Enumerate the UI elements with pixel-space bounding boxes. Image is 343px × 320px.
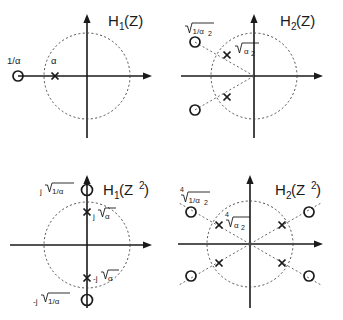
zero-label-prefix: -j (33, 297, 38, 306)
pole-label-radicand: α (244, 47, 249, 56)
zero-marker (190, 37, 200, 47)
pole-label-radicand: α (234, 221, 239, 230)
zero-label-subscript: 2 (208, 30, 212, 37)
axis-imaginary (246, 175, 253, 308)
pole-label-sqrt-alpha2: α 2 (235, 43, 259, 57)
title-argument-open: (Z (119, 181, 133, 198)
title-argument-open: (Z (291, 181, 305, 198)
pole-label-alpha: α (51, 55, 57, 66)
pole-marker (216, 222, 223, 229)
pole-label-radicand: α (105, 212, 110, 221)
title-argument-close: ) (316, 181, 321, 198)
pole-label-subscript: 2 (241, 224, 245, 231)
title-base: H (108, 12, 119, 29)
title-argument: (Z) (124, 12, 143, 29)
zero-marker (190, 105, 200, 115)
ray-330 (250, 203, 321, 244)
panel-h2-z: 1/α 2 α 2 H 2 (Z) (171, 0, 342, 160)
panel-title-h2-z: H 2 (Z) (280, 12, 315, 32)
axis-real (18, 72, 152, 79)
pole-label-prefix: -j (93, 274, 98, 283)
title-argument-close: ) (144, 181, 149, 198)
zero-label-sqrt-1-over-alpha2: 1/α 2 (185, 23, 214, 37)
panel-h2-z2: 4 1/α 2 4 α 2 H 2 (Z 2 ) (171, 160, 342, 320)
zero-label-neg-j-sqrt-1-over-alpha: -j 1/α (33, 293, 70, 306)
plot-h2-z: 1/α 2 α 2 H 2 (Z) (171, 0, 343, 160)
ray-150 (179, 203, 250, 244)
zero-label-prefix: j (39, 187, 42, 196)
plot-h1-z: 1/α α H 1 (Z) (0, 0, 171, 160)
panel-h1-z: 1/α α H 1 (Z) (0, 0, 171, 160)
pole-marker (279, 260, 286, 267)
axis-real (181, 72, 323, 79)
zero-marker (186, 271, 196, 281)
zero-label-4thrt-1-over-alpha2: 4 1/α 2 (180, 186, 210, 206)
title-base: H (103, 181, 114, 198)
zero-label-radicand: 1/α (52, 187, 64, 196)
plot-h1-z2: j 1/α j α -j α -j 1/α (0, 160, 171, 320)
ray-210 (179, 244, 250, 285)
panel-title-h2-z2: H 2 (Z 2 ) (275, 180, 321, 201)
ray-30 (250, 244, 321, 285)
zero-marker (186, 207, 196, 217)
zero-label-root-index: 4 (180, 186, 184, 193)
pole-marker (224, 52, 231, 59)
pole-marker (224, 94, 231, 101)
title-argument: (Z) (296, 12, 315, 29)
panel-h1-z2: j 1/α j α -j α -j 1/α (0, 160, 171, 320)
pole-zero-figure: 1/α α H 1 (Z) (0, 0, 343, 320)
zero-label-radicand: 1/α (48, 297, 60, 306)
panel-title-h1-z2: H 1 (Z 2 ) (103, 180, 149, 201)
pole-marker (279, 222, 286, 229)
zero-label-radicand: 1/α (189, 196, 201, 205)
zero-marker (304, 271, 314, 281)
pole-label-4thrt-alpha2: 4 α 2 (225, 211, 250, 231)
pole-label-subscript: 2 (251, 50, 255, 57)
pole-label-radicand: α (108, 274, 113, 283)
zero-label-j-sqrt-1-over-alpha: j 1/α (39, 183, 74, 196)
pole-marker (216, 260, 223, 267)
zero-label-radicand: 1/α (193, 27, 205, 36)
pole-label-prefix: j (92, 212, 95, 221)
panel-title-h1-z: H 1 (Z) (108, 12, 143, 32)
zero-marker (304, 207, 314, 217)
zero-label-subscript: 2 (204, 199, 208, 206)
title-base: H (275, 181, 286, 198)
axis-real (10, 241, 152, 248)
zero-label-1-over-alpha: 1/α (7, 55, 21, 66)
plot-h2-z2: 4 1/α 2 4 α 2 H 2 (Z 2 ) (171, 160, 343, 320)
pole-label-root-index: 4 (225, 211, 229, 218)
pole-label-neg-j-sqrt-alpha: -j α (93, 270, 119, 283)
title-base: H (280, 12, 291, 29)
